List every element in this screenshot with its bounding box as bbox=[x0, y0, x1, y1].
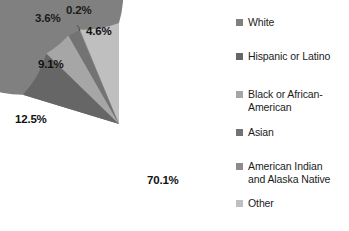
legend-item-white[interactable]: White bbox=[236, 16, 274, 29]
pie-plot-area: 70.1% 12.5% 9.1% 3.6% 0.2% 4.6% bbox=[0, 0, 232, 231]
legend-label-white: White bbox=[248, 16, 274, 29]
legend-item-other[interactable]: Other bbox=[236, 197, 274, 210]
slice-value-black: 9.1% bbox=[38, 58, 63, 70]
slice-value-white: 70.1% bbox=[147, 174, 179, 186]
legend-swatch-icon-asian bbox=[236, 129, 243, 136]
pie-chart-figure: 70.1% 12.5% 9.1% 3.6% 0.2% 4.6% White Hi… bbox=[0, 0, 349, 231]
slice-value-asian: 3.6% bbox=[35, 12, 60, 24]
legend-item-american-indian[interactable]: American Indian and Alaska Native bbox=[236, 160, 330, 185]
slice-value-american-indian: 0.2% bbox=[66, 4, 91, 16]
slice-value-hispanic: 12.5% bbox=[15, 113, 47, 125]
legend-swatch-icon-hispanic bbox=[236, 53, 243, 60]
legend-label-black: Black or African- American bbox=[248, 88, 323, 113]
chart-legend: White Hispanic or Latino Black or Africa… bbox=[236, 0, 349, 231]
legend-label-american-indian: American Indian and Alaska Native bbox=[248, 160, 330, 185]
legend-swatch-icon-black bbox=[236, 91, 243, 98]
legend-label-hispanic: Hispanic or Latino bbox=[248, 50, 330, 63]
legend-swatch-icon-american-indian bbox=[236, 163, 243, 170]
legend-swatch-icon-white bbox=[236, 19, 243, 26]
legend-swatch-icon-other bbox=[236, 200, 243, 207]
legend-label-other: Other bbox=[248, 197, 274, 210]
legend-item-asian[interactable]: Asian bbox=[236, 126, 274, 139]
legend-item-hispanic[interactable]: Hispanic or Latino bbox=[236, 50, 330, 63]
legend-label-asian: Asian bbox=[248, 126, 274, 139]
legend-item-black[interactable]: Black or African- American bbox=[236, 88, 323, 113]
slice-value-other: 4.6% bbox=[86, 25, 111, 37]
